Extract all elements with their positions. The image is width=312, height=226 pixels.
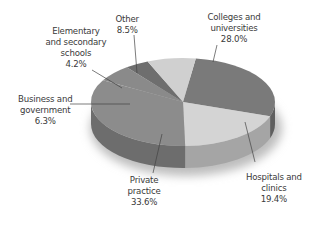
slice-label-5: Other8.5%: [116, 14, 139, 36]
slice-label-line: 8.5%: [116, 25, 139, 36]
slice-label-4: Elementaryand secondaryschools4.2%: [46, 26, 107, 70]
slice-label-line: Elementary: [46, 26, 107, 37]
slice-label-line: Private: [128, 175, 161, 186]
slice-label-line: and secondary: [46, 37, 107, 48]
leader-line-0: [213, 45, 217, 62]
slice-label-line: clinics: [246, 183, 302, 194]
slice-label-line: Business and: [18, 94, 72, 105]
slice-label-line: 28.0%: [208, 34, 261, 45]
slice-label-2: Privatepractice33.6%: [128, 175, 161, 208]
slice-label-line: 33.6%: [128, 197, 161, 208]
slice-label-0: Colleges anduniversities28.0%: [208, 12, 261, 45]
slice-label-3: Business andgovernment6.3%: [18, 94, 72, 127]
slice-label-line: Colleges and: [208, 12, 261, 23]
slice-label-line: government: [18, 105, 72, 116]
slice-label-line: 19.4%: [246, 194, 302, 205]
slice-label-line: Other: [116, 14, 139, 25]
slice-label-line: 4.2%: [46, 59, 107, 70]
slice-label-line: practice: [128, 186, 161, 197]
slice-label-line: 6.3%: [18, 116, 72, 127]
slice-label-1: Hospitals andclinics19.4%: [246, 172, 302, 205]
slice-label-line: schools: [46, 48, 107, 59]
slice-label-line: universities: [208, 23, 261, 34]
slice-label-line: Hospitals and: [246, 172, 302, 183]
